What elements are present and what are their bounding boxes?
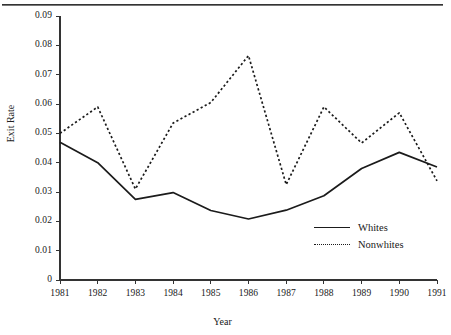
y-axis-tick-label: 0.01 [6, 246, 52, 256]
series-group [60, 56, 437, 219]
y-axis-tick-label: 0.08 [6, 40, 52, 50]
series-line-nonwhites [60, 56, 437, 189]
y-axis-tick-label: 0 [6, 275, 52, 285]
series-line-whites [60, 142, 437, 219]
y-axis-title: Exit Rate [5, 93, 16, 155]
legend-item-whites: Whites [314, 219, 434, 236]
legend-label-nonwhites: Nonwhites [350, 239, 404, 250]
y-axis-tick-label: 0.03 [6, 187, 52, 197]
x-axis-ticks [60, 280, 437, 284]
y-axis-tick-label: 0.02 [6, 216, 52, 226]
y-axis-tick-label: 0.07 [6, 70, 52, 80]
y-axis-tick-label: 0.04 [6, 158, 52, 168]
legend-swatch-dotted-line-icon [314, 240, 350, 250]
x-axis-tick-label: 1991 [415, 289, 451, 299]
legend-label-whites: Whites [350, 222, 388, 233]
legend-item-nonwhites: Nonwhites [314, 236, 434, 253]
chart-legend: Whites Nonwhites [314, 219, 434, 253]
x-axis-title: Year [0, 316, 445, 327]
y-axis-tick-label: 0.09 [6, 11, 52, 21]
y-axis-ticks [56, 16, 60, 280]
legend-swatch-solid-line-icon [314, 223, 350, 233]
